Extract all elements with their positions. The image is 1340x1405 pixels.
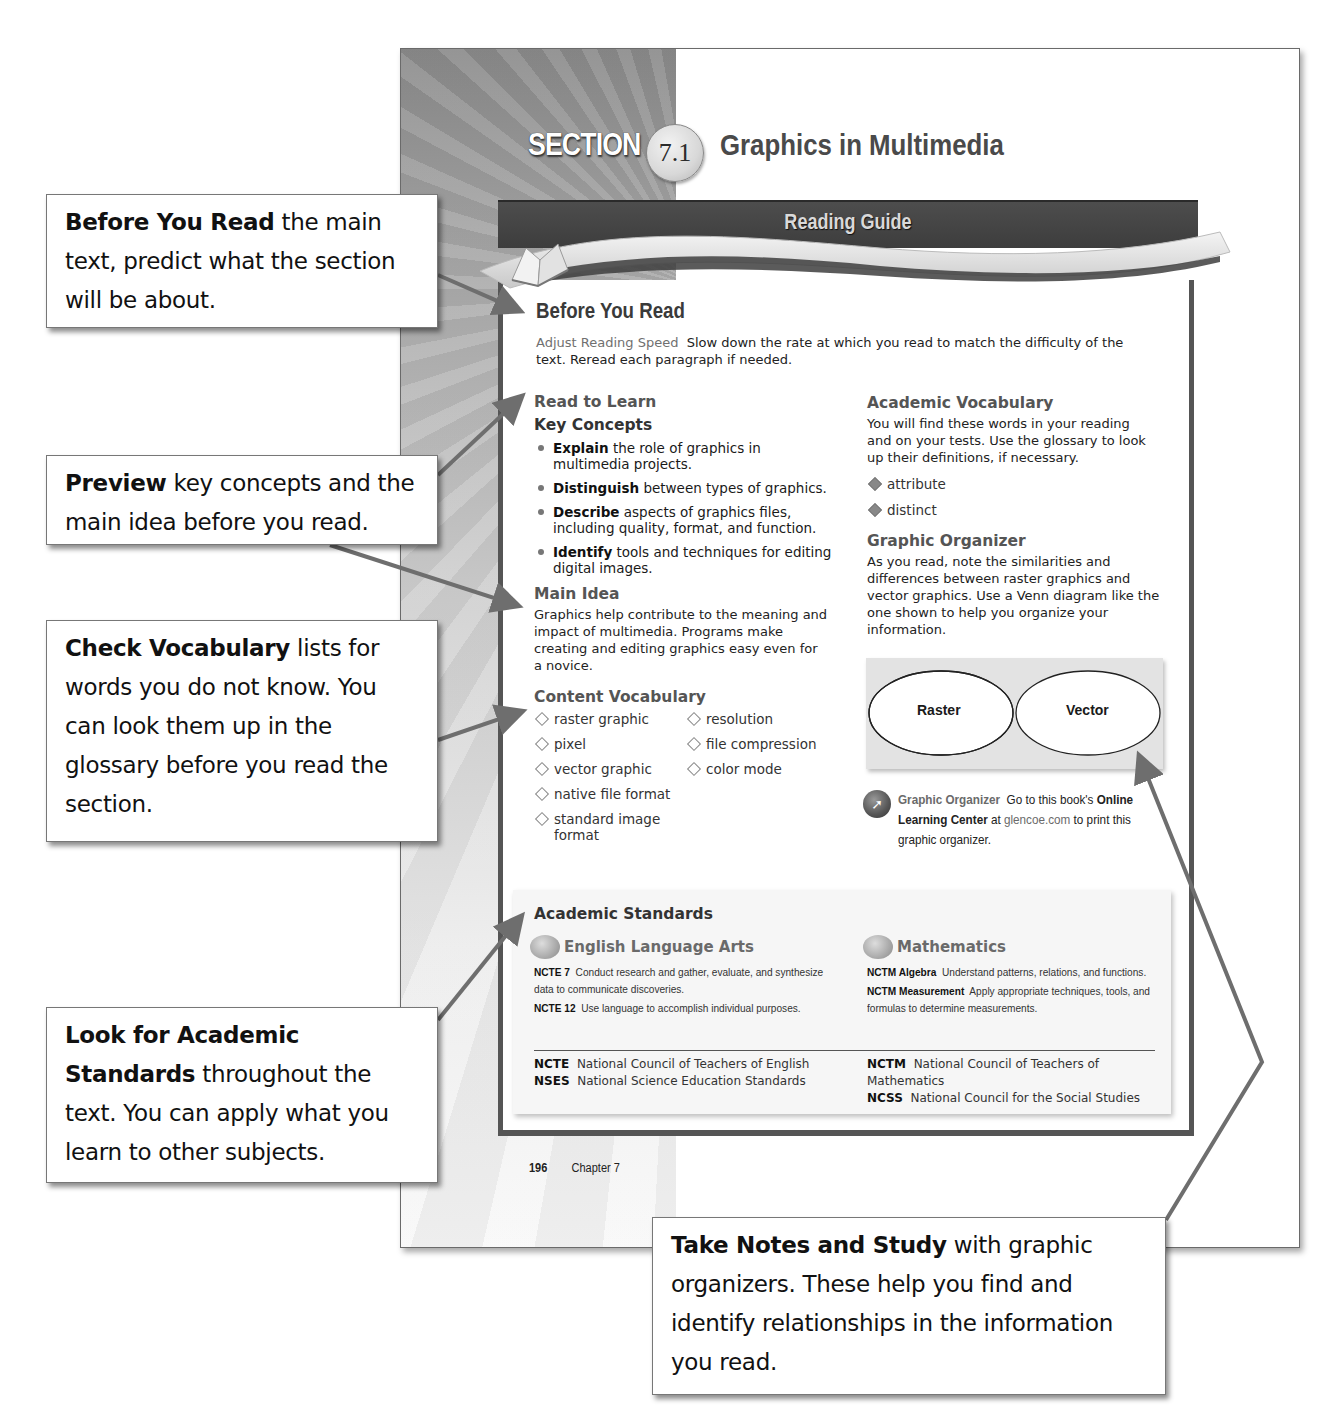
standard-item: NCTM Algebra Understand patterns, relati… — [867, 964, 1166, 981]
open-book-icon — [508, 240, 570, 288]
vocab-term: pixel — [534, 736, 686, 752]
ela-standards: English Language Arts NCTE 7 Conduct res… — [534, 934, 834, 1019]
before-you-read-heading: Before You Read — [536, 298, 685, 324]
venn-label-vector: Vector — [1066, 702, 1109, 718]
key-concept-item: Distinguish between types of graphics. — [534, 480, 834, 496]
section-number-badge: 7.1 — [646, 124, 704, 182]
read-to-learn-heading: Read to Learn — [534, 392, 834, 412]
page-folio: 196 Chapter 7 — [529, 1161, 620, 1175]
callout-before-you-read: Before You Read the main text, predict w… — [46, 194, 438, 328]
diamond-bullet-icon — [535, 737, 549, 751]
academic-vocab-term: distinct — [867, 502, 1167, 518]
diamond-bullet-icon — [535, 812, 549, 826]
vocab-term: color mode — [686, 761, 836, 777]
ribbon-swoosh — [480, 226, 1235, 296]
math-standards: Mathematics NCTM Algebra Understand patt… — [867, 934, 1162, 1019]
diamond-bullet-icon — [687, 712, 701, 726]
adjust-reading-speed-label: Adjust Reading Speed — [536, 335, 678, 350]
cursor-arrow-icon: ➚ — [863, 790, 891, 818]
section-label: SECTION — [528, 127, 629, 163]
main-idea-text: Graphics help contribute to the meaning … — [534, 606, 829, 674]
graphic-organizer-heading: Graphic Organizer — [867, 531, 1167, 551]
key-concept-item: Identify tools and techniques for editin… — [534, 544, 834, 576]
graphic-organizer-note: ➚ Graphic Organizer Go to this book's On… — [863, 790, 1163, 850]
callout-preview: Preview key concepts and the main idea b… — [46, 455, 438, 545]
academic-vocabulary-heading: Academic Vocabulary — [867, 393, 1167, 413]
diamond-bullet-icon — [687, 762, 701, 776]
venn-label-raster: Raster — [917, 702, 961, 718]
vocab-term: native file format — [534, 786, 686, 802]
standard-item: NCTE 7 Conduct research and gather, eval… — [534, 964, 833, 998]
diamond-bullet-icon — [535, 762, 549, 776]
content-vocabulary-heading: Content Vocabulary — [534, 687, 834, 707]
academic-standards-heading: Academic Standards — [534, 905, 713, 923]
callout-academic-standards: Look for Academic Standards throughout t… — [46, 1007, 438, 1183]
venn-diagram: Raster Vector — [866, 658, 1163, 769]
diamond-bullet-icon — [535, 712, 549, 726]
vocab-term: resolution — [686, 711, 836, 727]
abbreviations-right: NCTM National Council of Teachers of Mat… — [867, 1056, 1171, 1107]
book-icon — [530, 935, 560, 959]
vocab-term: vector graphic — [534, 761, 686, 777]
diamond-bullet-icon — [868, 477, 882, 491]
math-heading: Mathematics — [867, 934, 1162, 960]
read-to-learn-column: Read to Learn Key Concepts Explain the r… — [534, 392, 834, 843]
section-title: Graphics in Multimedia — [720, 128, 1004, 162]
vocab-term: standard image format — [534, 811, 674, 843]
abbreviations-left: NCTE National Council of Teachers of Eng… — [534, 1056, 809, 1090]
venn-circles — [866, 658, 1163, 769]
key-concepts-list: Explain the role of graphics in multimed… — [534, 440, 834, 576]
standards-divider — [534, 1050, 1155, 1051]
callout-take-notes: Take Notes and Study with graphic organi… — [652, 1217, 1166, 1395]
academic-standards-panel: Academic Standards English Language Arts… — [513, 890, 1171, 1114]
diamond-bullet-icon — [687, 737, 701, 751]
key-concept-item: Explain the role of graphics in multimed… — [534, 440, 834, 472]
key-concepts-heading: Key Concepts — [534, 415, 834, 435]
standard-item: NCTE 12 Use language to accomplish indiv… — [534, 1000, 833, 1017]
vocab-term: file compression — [686, 736, 836, 752]
main-idea-heading: Main Idea — [534, 584, 834, 604]
graphic-organizer-text: As you read, note the similarities and d… — [867, 553, 1162, 638]
ela-heading: English Language Arts — [534, 934, 834, 960]
calculator-icon — [863, 935, 893, 959]
diamond-bullet-icon — [868, 503, 882, 517]
glencoe-link[interactable]: glencoe.com — [1004, 812, 1070, 827]
section-heading: SECTION 7.1 Graphics in Multimedia — [528, 108, 1050, 182]
vocab-term: raster graphic — [534, 711, 686, 727]
academic-vocabulary-text: You will find these words in your readin… — [867, 415, 1157, 466]
graphic-organizer-note-text: Graphic Organizer Go to this book's Onli… — [898, 790, 1137, 850]
before-you-read-text: Adjust Reading Speed Slow down the rate … — [536, 334, 1136, 368]
chapter-label: Chapter 7 — [572, 1161, 620, 1175]
content-vocabulary-list: raster graphic resolution pixel file com… — [534, 711, 834, 843]
key-concept-item: Describe aspects of graphics files, incl… — [534, 504, 834, 536]
academic-vocab-term: attribute — [867, 476, 1167, 492]
standard-item: NCTM Measurement Apply appropriate techn… — [867, 983, 1166, 1017]
diamond-bullet-icon — [535, 787, 549, 801]
page-number: 196 — [529, 1161, 547, 1175]
vocabulary-organizer-column: Academic Vocabulary You will find these … — [867, 393, 1167, 638]
callout-check-vocabulary: Check Vocabulary lists for words you do … — [46, 620, 438, 842]
